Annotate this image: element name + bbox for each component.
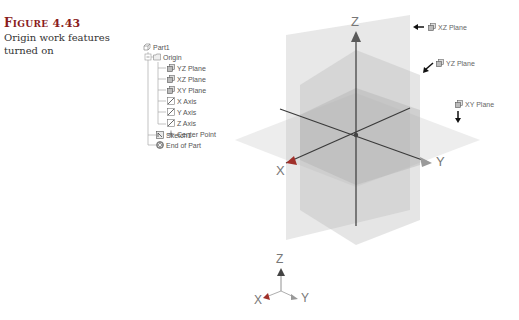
y-axis-label: Y [436,154,445,169]
xz-plane-callout: XZ Plane [428,23,467,31]
yz-plane-callout: YZ Plane [436,59,475,67]
triad-x-label: X [254,293,262,307]
z-axis-label: Z [351,14,359,29]
triad-z-label: Z [276,252,283,266]
work-plane-icon [455,100,463,108]
xy-plane-callout: XY Plane [455,100,494,108]
work-plane-icon [428,23,436,31]
xz-plane-arrow-icon [413,24,424,30]
xy-plane-arrow-icon [455,111,461,123]
center-point[interactable] [354,133,358,137]
yz-plane-arrow-icon [423,63,433,73]
x-axis-label: X [276,163,285,178]
coordinate-triad [263,268,298,300]
triad-y-label: Y [301,291,309,305]
work-plane-icon [436,59,444,67]
